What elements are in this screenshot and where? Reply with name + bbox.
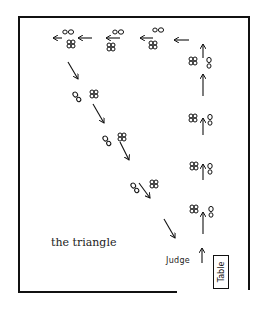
footprint-icon — [72, 91, 82, 102]
pawprint-icon — [190, 205, 198, 213]
arrow-down-right-icon — [120, 142, 129, 160]
footprint-icon — [153, 28, 164, 32]
footprint-icon — [208, 114, 212, 125]
pawprint-icon — [118, 133, 126, 141]
pawprint-icon — [90, 90, 98, 98]
judge-label: Judge — [166, 256, 190, 265]
footprint-icon — [113, 30, 124, 34]
pawprint-icon — [189, 57, 197, 65]
footprint-icon — [208, 163, 212, 174]
pawprint-icon — [107, 43, 115, 51]
right-leg — [202, 44, 203, 263]
pawprint-icon — [189, 114, 197, 122]
arrow-down-right-icon — [164, 219, 175, 238]
arrow-down-right-icon — [93, 104, 104, 123]
footprint-icon — [209, 206, 213, 217]
top-prints — [63, 28, 164, 51]
table-label: Table — [217, 262, 226, 283]
footprint-icon — [63, 30, 74, 34]
pawprint-icon — [149, 41, 157, 49]
judging-table: Table — [213, 255, 229, 289]
diagonal-leg — [68, 62, 175, 238]
pawprint-icon — [150, 180, 158, 188]
footprint-icon — [102, 135, 112, 146]
footprint-icon — [130, 182, 140, 193]
arrow-down-right-icon — [139, 183, 150, 198]
diagram-caption: the triangle — [51, 236, 116, 249]
arrow-down-right-icon — [68, 62, 78, 79]
ring-border — [19, 17, 249, 292]
footprint-icon — [207, 57, 211, 68]
pawprint-icon — [190, 162, 198, 170]
pawprint-icon — [67, 40, 75, 48]
right-prints — [189, 57, 213, 217]
diagonal-prints — [72, 90, 158, 194]
